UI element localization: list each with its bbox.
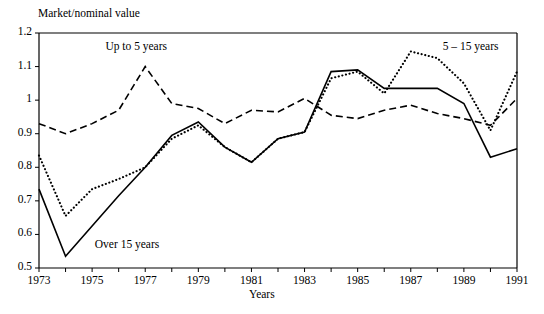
x-axis-tick-label: 1979 [174, 274, 222, 286]
series-line-up-to-5-years [39, 67, 517, 134]
y-axis-tick-label: 1 [0, 92, 32, 104]
y-axis-tick-label: 1.1 [0, 59, 32, 71]
x-axis-tick-label: 1977 [121, 274, 169, 286]
x-axis-tick-label: 1985 [334, 274, 382, 286]
y-axis-tick-label: 0.6 [0, 226, 32, 238]
x-axis-tick-label: 1989 [440, 274, 488, 286]
y-axis-tick-label: 0.8 [0, 159, 32, 171]
series-line-5-15-years [39, 51, 517, 216]
data-series-group [39, 51, 517, 256]
chart-container: 0.50.60.70.80.911.11.2 19731975197719791… [0, 0, 544, 314]
x-axis-tick-label: 1983 [281, 274, 329, 286]
y-axis-tick-label: 0.7 [0, 193, 32, 205]
series-line-over-15-years [39, 70, 517, 256]
x-axis-tick-label: 1981 [227, 274, 275, 286]
x-axis-tick-label: 1973 [15, 274, 63, 286]
series-label-5-15-years: 5 – 15 years [443, 40, 499, 52]
x-axis-tick-label: 1991 [493, 274, 541, 286]
x-axis-tick-label: 1975 [68, 274, 116, 286]
y-axis-title: Market/nominal value [38, 7, 140, 19]
series-label-over-15-years: Over 15 years [95, 238, 160, 250]
y-axis-tick-label: 1.2 [0, 25, 32, 37]
y-axis-tick-label: 0.9 [0, 126, 32, 138]
x-axis-title: Years [249, 288, 275, 300]
x-axis-tick-label: 1987 [387, 274, 435, 286]
y-axis-tick-label: 0.5 [0, 260, 32, 272]
chart-frame [39, 33, 517, 268]
series-label-up-to-5-years: Up to 5 years [105, 40, 167, 52]
